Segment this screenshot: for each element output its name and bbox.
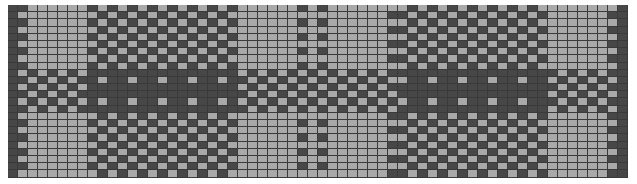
draft-cell bbox=[398, 27, 408, 34]
draft-cell bbox=[498, 156, 508, 163]
draft-cell bbox=[458, 70, 468, 77]
draft-cell bbox=[338, 98, 348, 105]
draft-cell bbox=[408, 106, 418, 113]
draft-cell bbox=[378, 5, 388, 12]
draft-cell bbox=[128, 41, 138, 48]
draft-cell bbox=[418, 77, 428, 84]
draft-cell bbox=[418, 27, 428, 34]
draft-cell bbox=[368, 98, 378, 105]
draft-cell bbox=[618, 5, 628, 12]
draft-cell bbox=[88, 113, 98, 120]
draft-cell bbox=[398, 113, 408, 120]
draft-cell bbox=[228, 120, 238, 127]
draft-cell bbox=[528, 77, 538, 84]
draft-cell bbox=[398, 55, 408, 62]
draft-cell bbox=[588, 106, 598, 113]
draft-cell bbox=[268, 127, 278, 134]
draft-cell bbox=[158, 84, 168, 91]
draft-cell bbox=[618, 55, 628, 62]
draft-cell bbox=[158, 91, 168, 98]
draft-cell bbox=[578, 91, 588, 98]
draft-cell bbox=[298, 27, 308, 34]
draft-cell bbox=[8, 170, 18, 177]
draft-cell bbox=[178, 63, 188, 70]
draft-cell bbox=[118, 77, 128, 84]
draft-cell bbox=[598, 84, 608, 91]
draft-cell bbox=[238, 127, 248, 134]
draft-cell bbox=[398, 149, 408, 156]
draft-cell bbox=[228, 19, 238, 26]
draft-cell bbox=[618, 156, 628, 163]
draft-cell bbox=[428, 134, 438, 141]
draft-cell bbox=[288, 106, 298, 113]
draft-cell bbox=[328, 5, 338, 12]
draft-cell bbox=[598, 170, 608, 177]
draft-cell bbox=[528, 84, 538, 91]
draft-cell bbox=[428, 70, 438, 77]
draft-cell bbox=[558, 149, 568, 156]
draft-cell bbox=[148, 48, 158, 55]
draft-cell bbox=[518, 34, 528, 41]
draft-cell bbox=[18, 48, 28, 55]
draft-cell bbox=[298, 134, 308, 141]
draft-cell bbox=[448, 156, 458, 163]
draft-cell bbox=[188, 41, 198, 48]
draft-cell bbox=[428, 156, 438, 163]
draft-cell bbox=[108, 34, 118, 41]
draft-cell bbox=[208, 142, 218, 149]
draft-cell bbox=[248, 48, 258, 55]
draft-cell bbox=[108, 120, 118, 127]
draft-cell bbox=[538, 34, 548, 41]
draft-cell bbox=[298, 5, 308, 12]
draft-cell bbox=[228, 149, 238, 156]
draft-cell bbox=[458, 84, 468, 91]
draft-cell bbox=[28, 63, 38, 70]
draft-cell bbox=[68, 170, 78, 177]
draft-cell bbox=[378, 48, 388, 55]
draft-cell bbox=[298, 48, 308, 55]
draft-cell bbox=[138, 70, 148, 77]
draft-cell bbox=[58, 34, 68, 41]
draft-cell bbox=[278, 48, 288, 55]
draft-cell bbox=[58, 149, 68, 156]
draft-cell bbox=[138, 55, 148, 62]
draft-cell bbox=[468, 106, 478, 113]
draft-cell bbox=[448, 12, 458, 19]
draft-cell bbox=[208, 120, 218, 127]
draft-cell bbox=[568, 84, 578, 91]
draft-cell bbox=[408, 41, 418, 48]
draft-cell bbox=[18, 55, 28, 62]
draft-cell bbox=[278, 34, 288, 41]
draft-cell bbox=[198, 77, 208, 84]
draft-cell bbox=[398, 34, 408, 41]
draft-cell bbox=[608, 48, 618, 55]
draft-cell bbox=[288, 127, 298, 134]
draft-cell bbox=[418, 134, 428, 141]
draft-cell bbox=[78, 113, 88, 120]
draft-cell bbox=[418, 170, 428, 177]
draft-cell bbox=[368, 5, 378, 12]
draft-cell bbox=[428, 149, 438, 156]
draft-cell bbox=[198, 142, 208, 149]
draft-cell bbox=[218, 55, 228, 62]
draft-cell bbox=[308, 19, 318, 26]
draft-cell bbox=[98, 77, 108, 84]
draft-cell bbox=[288, 120, 298, 127]
draft-cell bbox=[178, 163, 188, 170]
draft-cell bbox=[468, 41, 478, 48]
draft-cell bbox=[418, 98, 428, 105]
draft-cell bbox=[298, 142, 308, 149]
draft-cell bbox=[558, 27, 568, 34]
draft-cell bbox=[428, 163, 438, 170]
draft-cell bbox=[188, 106, 198, 113]
draft-cell bbox=[518, 127, 528, 134]
draft-cell bbox=[48, 12, 58, 19]
draft-cell bbox=[128, 120, 138, 127]
draft-cell bbox=[468, 5, 478, 12]
draft-cell bbox=[528, 27, 538, 34]
draft-cell bbox=[618, 106, 628, 113]
draft-cell bbox=[578, 77, 588, 84]
draft-cell bbox=[248, 163, 258, 170]
draft-cell bbox=[378, 84, 388, 91]
draft-cell bbox=[8, 156, 18, 163]
